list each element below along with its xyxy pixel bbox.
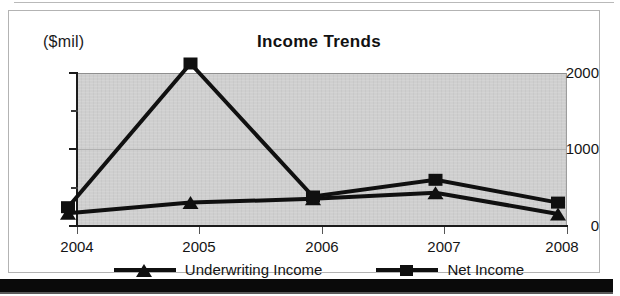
legend-entry-net-income: Net Income (376, 261, 524, 278)
y-tick-500 (71, 187, 78, 189)
chart-frame: ($mil) Income Trends 2000 1000 0 2004 20… (8, 10, 600, 273)
x-label-2005: 2005 (159, 238, 239, 255)
triangle-marker-icon (114, 262, 176, 278)
x-tick-2007 (444, 227, 445, 234)
chart-title: Income Trends (9, 32, 620, 52)
chart-legend: Underwriting Income Net Income (9, 261, 620, 278)
x-tick-2006 (322, 227, 323, 234)
square-marker-icon (376, 262, 438, 278)
x-tick-2005 (199, 227, 200, 234)
y-tick-1000 (69, 148, 78, 150)
x-label-2006: 2006 (282, 238, 362, 255)
x-label-2007: 2007 (404, 238, 484, 255)
x-label-2008: 2008 (522, 238, 602, 255)
legend-label-net-income: Net Income (447, 261, 524, 278)
y-label-2000: 2000 (545, 64, 599, 81)
scan-artifact-top-rule (14, 2, 614, 3)
scan-artifact-bottom-bar (0, 279, 613, 292)
y-tick-1500 (71, 110, 78, 112)
y-tick-2000 (69, 72, 78, 74)
x-label-2004: 2004 (37, 238, 117, 255)
y-label-0: 0 (545, 217, 599, 234)
legend-label-underwriting-income: Underwriting Income (185, 261, 323, 278)
y-label-1000: 1000 (545, 140, 599, 157)
x-tick-2008 (567, 227, 568, 234)
x-tick-2004 (77, 227, 78, 234)
gridline-1000 (77, 149, 566, 150)
legend-entry-underwriting-income: Underwriting Income (114, 261, 323, 278)
plot-top-rule (77, 73, 566, 74)
plot-area (77, 73, 567, 225)
